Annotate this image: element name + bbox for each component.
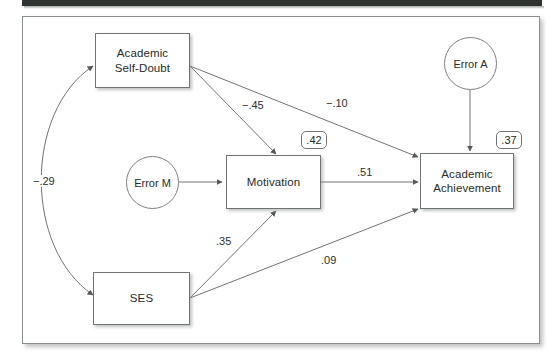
node-label-line1: Academic [441, 168, 492, 180]
page-header-bar-shadow [24, 6, 544, 9]
coefficient-value: .09 [321, 254, 336, 266]
node-academic-self-doubt[interactable]: Academic Self-Doubt [95, 33, 190, 88]
coefficient-label-self-doubt-to-achievement: −.10 [325, 97, 349, 109]
coefficient-value: −.45 [242, 99, 264, 111]
node-error-a[interactable]: Error A [444, 37, 497, 90]
node-motivation[interactable]: Motivation [226, 155, 321, 209]
coefficient-label-ses-to-motivation: .35 [215, 235, 232, 247]
variance-badge-achievement-value: .37 [501, 134, 516, 146]
node-label-line2: Self-Doubt [115, 62, 170, 74]
node-error-a-label: Error A [453, 58, 487, 70]
node-ses-label: SES [130, 291, 153, 305]
node-label-line1: Academic [117, 47, 168, 59]
coefficient-value: −.10 [326, 97, 348, 109]
variance-badge-motivation-value: .42 [306, 134, 321, 146]
node-academic-achievement[interactable]: Academic Achievement [420, 153, 514, 209]
variance-badge-motivation: .42 [301, 131, 327, 149]
variance-badge-achievement: .37 [496, 131, 522, 149]
node-error-m[interactable]: Error M [126, 156, 179, 209]
node-error-m-label: Error M [134, 177, 171, 189]
node-academic-achievement-label: Academic Achievement [433, 167, 501, 196]
coefficient-value: −.29 [33, 175, 55, 187]
node-label-line2: Achievement [433, 182, 501, 194]
node-academic-self-doubt-label: Academic Self-Doubt [115, 46, 170, 75]
coefficient-label-self-doubt-ses-covariance: −.29 [32, 175, 56, 187]
coefficient-label-ses-to-achievement: .09 [320, 254, 337, 266]
node-motivation-label: Motivation [247, 175, 300, 189]
figure-canvas: Academic Self-Doubt Motivation Academic … [0, 0, 555, 364]
coefficient-value: .51 [357, 166, 372, 178]
node-ses[interactable]: SES [93, 272, 190, 325]
coefficient-label-self-doubt-to-motivation: −.45 [241, 99, 265, 111]
coefficient-label-motivation-to-achievement: .51 [356, 166, 373, 178]
coefficient-value: .35 [216, 235, 231, 247]
